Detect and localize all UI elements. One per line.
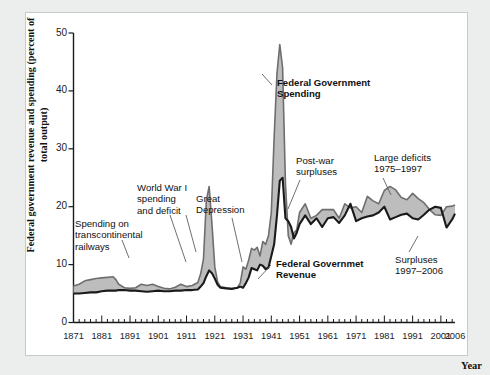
x-tick-marks bbox=[74, 316, 453, 323]
figure-container: Federal government revenue and spending … bbox=[0, 0, 490, 375]
y-tick-label-50: 50 bbox=[45, 27, 67, 38]
leader-depression bbox=[232, 218, 242, 262]
annotation-spending-on-railways: Spending on transcontinental railways bbox=[75, 218, 143, 252]
y-tick-label-0: 0 bbox=[45, 316, 67, 327]
annotation-large-deficits: Large deficits 1975–1997 bbox=[374, 152, 431, 175]
leader-wwi-2 bbox=[186, 215, 196, 252]
leader-postwar bbox=[288, 180, 300, 209]
leader-spending bbox=[262, 74, 272, 85]
annotation-great-depression: Great Depression bbox=[196, 193, 245, 216]
y-tick-marks bbox=[69, 33, 74, 323]
chart-svg bbox=[0, 0, 490, 375]
y-tick-label-10: 10 bbox=[45, 258, 67, 269]
annotation-surpluses-1997-2006: Surpluses 1997–2006 bbox=[395, 254, 443, 277]
annotation-federal-government-spending: Federal Government Spending bbox=[277, 77, 370, 100]
leader-surpluses bbox=[409, 236, 418, 252]
x-tick-label-2006: 2006 bbox=[438, 331, 472, 341]
annotation-federal-government-revenue: Federal Governmet Revenue bbox=[276, 258, 363, 281]
leader-wwi bbox=[170, 215, 186, 262]
y-tick-label-20: 20 bbox=[45, 200, 67, 211]
y-tick-label-40: 40 bbox=[45, 84, 67, 95]
annotation-world-war-one: World War I spending and deficit bbox=[137, 182, 187, 216]
annotation-post-war-surpluses: Post-war surpluses bbox=[296, 155, 337, 178]
y-tick-label-30: 30 bbox=[45, 142, 67, 153]
x-axis-title: Year bbox=[461, 360, 482, 371]
